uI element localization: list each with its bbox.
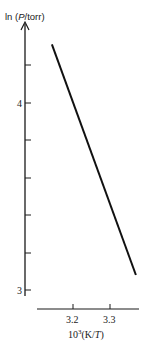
chart: 4 3 ln (P/torr) 3.2 3.3 103(K/T) bbox=[0, 0, 146, 350]
data-line bbox=[52, 44, 136, 275]
y-tick-label-4: 4 bbox=[17, 98, 22, 109]
y-tick-label-3: 3 bbox=[17, 285, 22, 296]
x-ticks bbox=[73, 304, 110, 309]
x-tick-label-3-3: 3.3 bbox=[103, 314, 116, 325]
y-axis-label: ln (P/torr) bbox=[5, 11, 45, 22]
x-axis-label: 103(K/T) bbox=[68, 328, 104, 341]
y-ticks bbox=[25, 65, 31, 290]
x-tick-label-3-2: 3.2 bbox=[66, 314, 79, 325]
